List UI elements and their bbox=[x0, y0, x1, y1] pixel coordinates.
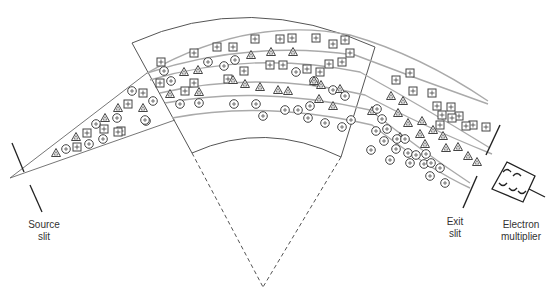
electron-multiplier-icon bbox=[492, 162, 545, 202]
ions-source-region bbox=[52, 87, 158, 157]
magnet-inner-arc bbox=[192, 137, 341, 157]
radius-line-left bbox=[192, 153, 263, 287]
radius-line-right bbox=[263, 157, 341, 287]
exit-slit-label: Exit slit bbox=[440, 216, 470, 240]
electron-multiplier-label: Electron multiplier bbox=[492, 219, 550, 243]
source-slit bbox=[12, 143, 42, 212]
source-slit-label: Source slit bbox=[24, 219, 64, 243]
mass-spectrometer-diagram bbox=[0, 0, 551, 296]
exit-slit bbox=[463, 125, 500, 208]
